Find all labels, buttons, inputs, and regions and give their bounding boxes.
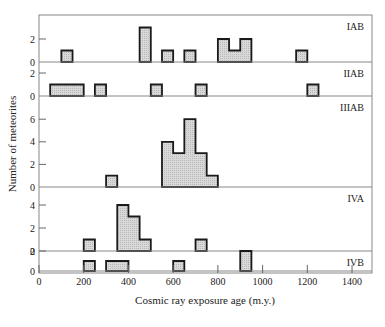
panels-layer: 02IAB02IIAB0246IIIAB024IVA02IVB [30,15,372,277]
y-tick-label: 2 [30,68,35,79]
histogram-bars [240,251,251,271]
histogram-bars [84,261,95,271]
histogram-bars [151,85,162,97]
panel-iva: 024IVA [30,193,372,257]
y-tick-label: 2 [30,159,35,170]
histogram-bars [140,28,151,63]
histogram-bars [307,85,318,97]
x-tick-label: 1000 [253,276,273,287]
histogram-bars [50,85,84,97]
panel-iiab: 02IIAB [30,68,372,102]
x-tick-label: 800 [210,276,225,287]
y-tick-label: 0 [30,266,35,277]
x-tick-label: 0 [37,276,42,287]
panel-label: IVB [347,257,365,268]
histogram-bars [296,51,307,63]
y-tick-label: 0 [30,57,35,68]
histogram-bars [162,119,218,187]
x-axis-label: Cosmic ray exposure age (m.y.) [135,294,275,307]
panel-label: IAB [347,21,365,32]
panel-iiiab: 0246IIIAB [30,102,372,193]
x-tick-label: 200 [76,276,91,287]
plot-frame [39,15,372,273]
y-tick-label: 4 [30,136,35,147]
histogram-bars [184,51,195,63]
y-tick-label: 6 [30,114,35,125]
histogram-bars [61,51,72,63]
histogram-bars [106,176,117,187]
x-tick-label: 1400 [342,276,362,287]
y-tick-label: 0 [30,182,35,193]
panel-label: IIAB [343,68,364,79]
histogram-bars [117,205,151,251]
x-tick-label: 600 [166,276,181,287]
panel-label: IVA [348,193,365,204]
y-tick-label: 2 [30,34,35,45]
histogram-bars [95,85,106,97]
histogram-bars [106,261,128,271]
histogram-panels: 02IAB02IIAB0246IIIAB024IVA02IVB 02004006… [0,0,385,327]
histogram-bars [162,51,173,63]
meteorite-exposure-age-chart: 02IAB02IIAB0246IIIAB024IVA02IVB 02004006… [0,0,385,327]
histogram-bars [84,240,95,252]
panel-label: IIIAB [340,102,364,113]
histogram-bars [173,261,184,271]
y-axis-label: Number of meteorites [6,96,18,193]
histogram-bars [218,39,252,62]
y-tick-label: 2 [30,223,35,234]
panel-iab: 02IAB [30,21,372,68]
histogram-bars [196,240,207,252]
x-tick-label: 400 [121,276,136,287]
x-tick-label: 1200 [297,276,317,287]
y-tick-label: 2 [30,246,35,257]
y-tick-label: 0 [30,91,35,102]
y-tick-label: 4 [30,200,35,211]
histogram-bars [196,85,207,97]
